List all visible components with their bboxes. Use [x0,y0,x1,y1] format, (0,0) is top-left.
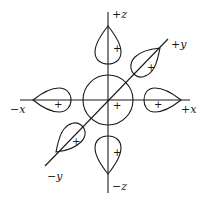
sign-plus-y: + [147,62,155,73]
label-plus-y: +y [171,38,187,51]
label-minus-z: −z [112,180,127,193]
sign-minus-x: + [54,99,62,110]
lobe-minus-y [56,123,85,152]
sign-minus-y: + [72,136,80,147]
y-axis [45,39,168,166]
sign-plus-x: + [154,99,162,110]
label-plus-z: +z [112,8,127,21]
label-plus-x: +x [181,103,197,116]
sign-plus-z: + [113,43,121,54]
sign-minus-z: + [113,147,121,158]
orbital-diagram: + + + + + + + +z −z +y −y +x −x [0,0,205,200]
sign-center: + [113,100,121,111]
label-minus-y: −y [47,170,63,183]
label-minus-x: −x [10,103,26,116]
